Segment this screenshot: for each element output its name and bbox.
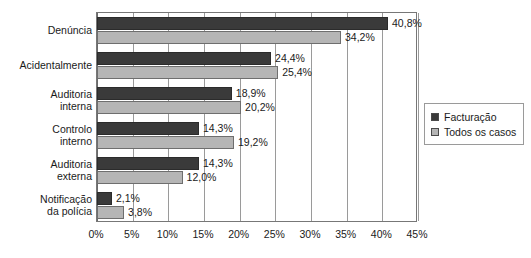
x-tick-label: 10% [157, 228, 178, 240]
category-label: Auditoria interna [0, 88, 92, 112]
category-axis-labels: DenúnciaAcidentalmenteAuditoria internaC… [0, 12, 92, 222]
bar-value-label: 40,8% [392, 17, 422, 30]
bar-value-label: 2,1% [116, 192, 140, 205]
bar-1-0 [97, 31, 341, 44]
plot-area: 40,8%34,2%24,4%25,4%18,9%20,2%14,3%19,2%… [96, 12, 417, 222]
bar-1-3 [97, 136, 234, 149]
legend-swatch-icon [431, 113, 439, 121]
x-tick-label: 35% [335, 228, 356, 240]
bar-value-label: 24,4% [275, 52, 305, 65]
bar-1-1 [97, 66, 278, 79]
value-axis-labels: 0%5%10%15%20%25%30%35%40%45% [96, 228, 417, 244]
legend-swatch-icon [431, 128, 439, 136]
bar-value-label: 19,2% [238, 136, 268, 149]
bar-1-2 [97, 101, 241, 114]
category-label: Controlo interno [0, 123, 92, 147]
chart-figure: DenúnciaAcidentalmenteAuditoria internaC… [0, 0, 531, 258]
bar-value-label: 20,2% [245, 101, 275, 114]
legend-label: Facturação [444, 111, 497, 123]
bar-value-label: 14,3% [203, 122, 233, 135]
x-tick-label: 15% [192, 228, 213, 240]
bar-0-4 [97, 157, 199, 170]
bar-0-2 [97, 87, 232, 100]
gridline-45 [418, 13, 419, 221]
bar-group: 40,8%34,2% [97, 17, 416, 45]
bar-value-label: 3,8% [128, 206, 152, 219]
bar-value-label: 34,2% [345, 31, 375, 44]
category-label: Denúncia [0, 24, 92, 36]
x-tick-label: 25% [264, 228, 285, 240]
x-tick-label: 45% [406, 228, 427, 240]
legend-label: Todos os casos [444, 126, 516, 138]
x-tick-label: 30% [299, 228, 320, 240]
bar-0-1 [97, 52, 271, 65]
bar-value-label: 14,3% [203, 157, 233, 170]
category-label: Acidentalmente [0, 59, 92, 71]
bar-0-0 [97, 17, 388, 30]
bar-group: 18,9%20,2% [97, 87, 416, 115]
x-tick-label: 20% [228, 228, 249, 240]
bar-group: 14,3%12,0% [97, 157, 416, 185]
x-tick-label: 0% [88, 228, 103, 240]
bar-value-label: 25,4% [282, 66, 312, 79]
bar-group: 14,3%19,2% [97, 122, 416, 150]
bar-0-3 [97, 122, 199, 135]
category-label: Auditoria externa [0, 158, 92, 182]
bar-group: 2,1%3,8% [97, 192, 416, 220]
legend: FacturaçãoTodos os casos [424, 103, 524, 145]
x-tick-label: 40% [371, 228, 392, 240]
bar-group: 24,4%25,4% [97, 52, 416, 80]
bar-value-label: 12,0% [187, 171, 217, 184]
bar-0-5 [97, 192, 112, 205]
legend-entry-0[interactable]: Facturação [431, 109, 516, 124]
bar-value-label: 18,9% [236, 87, 266, 100]
category-label: Notificação da polícia [0, 193, 92, 217]
bar-1-4 [97, 171, 183, 184]
legend-entry-1[interactable]: Todos os casos [431, 124, 516, 139]
x-tick-label: 5% [124, 228, 139, 240]
bar-1-5 [97, 206, 124, 219]
